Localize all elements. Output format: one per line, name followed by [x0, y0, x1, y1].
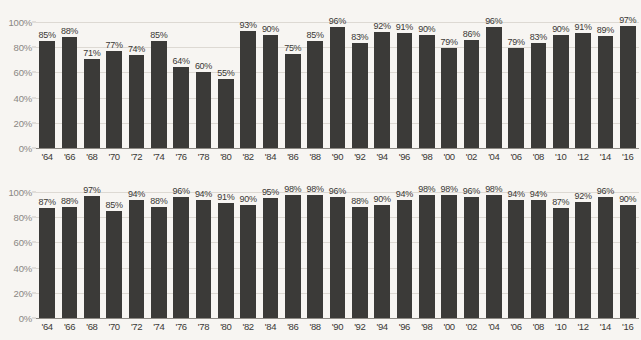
- bar[interactable]: [173, 67, 189, 148]
- bar[interactable]: [62, 37, 78, 148]
- bar[interactable]: [598, 197, 614, 318]
- bar[interactable]: [196, 200, 212, 318]
- bar[interactable]: [263, 198, 279, 318]
- bar[interactable]: [196, 72, 212, 148]
- bar-slot[interactable]: 91%: [393, 22, 415, 148]
- bar[interactable]: [598, 36, 614, 148]
- bar[interactable]: [620, 26, 636, 148]
- bar-slot[interactable]: 94%: [192, 192, 214, 318]
- bar[interactable]: [397, 33, 413, 148]
- bar-slot[interactable]: 91%: [215, 192, 237, 318]
- bar[interactable]: [374, 32, 390, 148]
- bar[interactable]: [352, 207, 368, 318]
- bar-slot[interactable]: 98%: [304, 192, 326, 318]
- bar-slot[interactable]: 83%: [527, 22, 549, 148]
- bar[interactable]: [441, 195, 457, 318]
- bar[interactable]: [486, 27, 502, 148]
- bar-slot[interactable]: 77%: [103, 22, 125, 148]
- bar-slot[interactable]: 95%: [259, 192, 281, 318]
- bar-slot[interactable]: 96%: [170, 192, 192, 318]
- bar-slot[interactable]: 88%: [58, 22, 80, 148]
- bar-slot[interactable]: 97%: [81, 192, 103, 318]
- bar-slot[interactable]: 60%: [192, 22, 214, 148]
- bar-slot[interactable]: 79%: [505, 22, 527, 148]
- bar-slot[interactable]: 93%: [237, 22, 259, 148]
- bar[interactable]: [39, 41, 55, 148]
- bar[interactable]: [106, 211, 122, 318]
- bar[interactable]: [419, 195, 435, 318]
- bar-slot[interactable]: 88%: [58, 192, 80, 318]
- bar-slot[interactable]: 94%: [527, 192, 549, 318]
- bar-slot[interactable]: 87%: [36, 192, 58, 318]
- bar-slot[interactable]: 88%: [148, 192, 170, 318]
- bar[interactable]: [240, 31, 256, 148]
- bar-slot[interactable]: 55%: [215, 22, 237, 148]
- bar-slot[interactable]: 90%: [237, 192, 259, 318]
- bar[interactable]: [39, 208, 55, 318]
- bar[interactable]: [330, 27, 346, 148]
- bar-slot[interactable]: 85%: [103, 192, 125, 318]
- bar-slot[interactable]: 74%: [125, 22, 147, 148]
- bar[interactable]: [263, 35, 279, 148]
- bar[interactable]: [151, 41, 167, 148]
- bar[interactable]: [129, 200, 145, 318]
- bar-slot[interactable]: 87%: [550, 192, 572, 318]
- bar[interactable]: [218, 79, 234, 148]
- bar[interactable]: [173, 197, 189, 318]
- bar[interactable]: [84, 59, 100, 148]
- bar-slot[interactable]: 85%: [304, 22, 326, 148]
- bar-slot[interactable]: 86%: [460, 22, 482, 148]
- bar-slot[interactable]: 98%: [416, 192, 438, 318]
- bar-slot[interactable]: 89%: [594, 22, 616, 148]
- bar[interactable]: [352, 43, 368, 148]
- bar-slot[interactable]: 90%: [259, 22, 281, 148]
- bar[interactable]: [575, 202, 591, 318]
- bar-slot[interactable]: 79%: [438, 22, 460, 148]
- bar[interactable]: [620, 205, 636, 318]
- bar-slot[interactable]: 96%: [483, 22, 505, 148]
- bar-slot[interactable]: 98%: [483, 192, 505, 318]
- bar[interactable]: [553, 35, 569, 148]
- bar-slot[interactable]: 98%: [438, 192, 460, 318]
- bar-slot[interactable]: 96%: [326, 22, 348, 148]
- bar[interactable]: [106, 51, 122, 148]
- bar[interactable]: [307, 41, 323, 148]
- bar-slot[interactable]: 94%: [505, 192, 527, 318]
- bar[interactable]: [129, 55, 145, 148]
- bar-slot[interactable]: 71%: [81, 22, 103, 148]
- bar-slot[interactable]: 96%: [594, 192, 616, 318]
- bar[interactable]: [84, 196, 100, 318]
- bar-slot[interactable]: 92%: [572, 192, 594, 318]
- bar[interactable]: [464, 40, 480, 148]
- bar[interactable]: [151, 207, 167, 318]
- bar-slot[interactable]: 85%: [36, 22, 58, 148]
- bar[interactable]: [531, 200, 547, 318]
- bar[interactable]: [508, 200, 524, 318]
- bar-slot[interactable]: 91%: [572, 22, 594, 148]
- bar-slot[interactable]: 90%: [550, 22, 572, 148]
- bar-slot[interactable]: 94%: [125, 192, 147, 318]
- bar-slot[interactable]: 94%: [393, 192, 415, 318]
- bar[interactable]: [397, 200, 413, 318]
- bar-slot[interactable]: 85%: [148, 22, 170, 148]
- bar-slot[interactable]: 96%: [326, 192, 348, 318]
- bar[interactable]: [240, 205, 256, 318]
- bar-slot[interactable]: 64%: [170, 22, 192, 148]
- bar[interactable]: [330, 197, 346, 318]
- bar-slot[interactable]: 90%: [617, 192, 639, 318]
- bar-slot[interactable]: 90%: [371, 192, 393, 318]
- bar-slot[interactable]: 75%: [282, 22, 304, 148]
- bar[interactable]: [508, 48, 524, 148]
- bar[interactable]: [285, 54, 301, 149]
- bar[interactable]: [307, 195, 323, 318]
- bar[interactable]: [419, 35, 435, 148]
- bar[interactable]: [62, 207, 78, 318]
- bar-slot[interactable]: 90%: [416, 22, 438, 148]
- bar-slot[interactable]: 92%: [371, 22, 393, 148]
- bar[interactable]: [285, 195, 301, 318]
- bar-slot[interactable]: 98%: [282, 192, 304, 318]
- bar-slot[interactable]: 96%: [460, 192, 482, 318]
- bar[interactable]: [486, 195, 502, 318]
- bar[interactable]: [464, 197, 480, 318]
- bar[interactable]: [374, 205, 390, 318]
